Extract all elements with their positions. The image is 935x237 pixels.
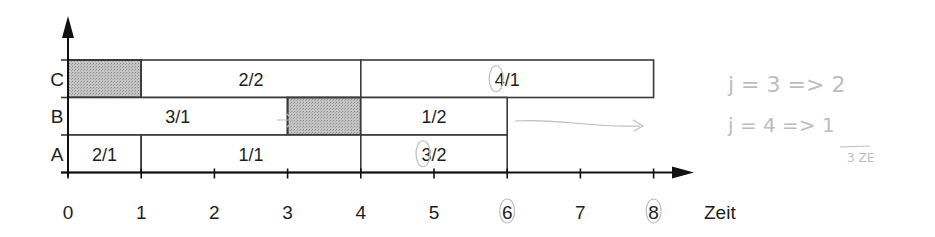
handwritten-total: 3 ZE (847, 151, 874, 165)
row-label-A: A (51, 144, 64, 165)
x-tick-label: 1 (136, 202, 147, 223)
x-axis-title: Zeit (704, 202, 736, 223)
gantt-chart-svg: C2/24/1B3/11/2A2/11/13/2012345678Zeit j … (0, 0, 935, 237)
task-label: 2/1 (92, 145, 117, 165)
idle-block (68, 60, 141, 98)
task-label: 2/2 (238, 70, 263, 90)
task-label: 1/1 (238, 145, 263, 165)
pencil-arrow-icon (515, 120, 643, 131)
task-label: 3/2 (421, 145, 446, 165)
x-tick-label: 5 (429, 202, 440, 223)
x-tick-label: 8 (648, 202, 659, 223)
x-tick-label: 0 (63, 202, 74, 223)
row-label-C: C (50, 69, 64, 90)
x-axis-arrow-icon (672, 167, 694, 179)
x-tick-label: 4 (356, 202, 367, 223)
x-tick-label: 2 (209, 202, 220, 223)
handwritten-note: j = 3 => 2 (727, 72, 845, 97)
task-label: 3/1 (165, 107, 190, 127)
row-label-B: B (51, 106, 64, 127)
gantt-diagram: C2/24/1B3/11/2A2/11/13/2012345678Zeit j … (0, 0, 935, 237)
handwritten-note: j = 4 => 1 (727, 113, 835, 137)
idle-block (288, 98, 361, 136)
gantt-bars (68, 60, 654, 173)
task-label: 1/2 (421, 107, 446, 127)
x-tick-label: 7 (575, 202, 586, 223)
task-label: 4/1 (495, 70, 520, 90)
x-tick-label: 3 (282, 202, 293, 223)
x-tick-label: 6 (502, 202, 513, 223)
y-axis-arrow-icon (62, 16, 74, 38)
pencil-underline (840, 146, 870, 147)
